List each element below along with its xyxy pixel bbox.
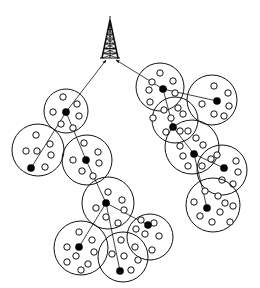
sensor-node: [161, 107, 167, 113]
cluster-head-node: [102, 199, 110, 207]
cluster-K: [165, 120, 219, 174]
cluster-M: [186, 178, 240, 232]
sensor-node: [170, 78, 176, 84]
sensor-node: [221, 113, 227, 119]
sensor-node: [138, 217, 144, 223]
sensor-node: [34, 148, 40, 154]
sensor-node: [73, 253, 79, 259]
sensor-node: [133, 226, 139, 232]
sensor-node: [208, 156, 214, 162]
sensor-node: [156, 233, 162, 239]
sensor-node: [91, 249, 97, 255]
cluster-G: [98, 232, 148, 282]
sensor-node: [226, 103, 232, 109]
sensor-node: [85, 261, 91, 267]
cluster-head-node: [213, 97, 221, 105]
cluster-head-node: [203, 204, 211, 212]
cluster-D: [82, 177, 134, 229]
sensor-node: [180, 111, 186, 117]
link-line: [86, 160, 106, 203]
cluster-B: [12, 124, 64, 176]
sensor-node: [64, 244, 70, 250]
sensor-node: [109, 251, 115, 257]
sensor-node: [90, 173, 96, 179]
sensor-node: [81, 140, 87, 146]
sensor-node: [42, 164, 48, 170]
sensor-node: [118, 237, 124, 243]
sensor-node: [150, 115, 156, 121]
sensor-node: [128, 267, 134, 273]
sensor-node: [197, 213, 203, 219]
sensor-node: [33, 132, 39, 138]
sensor-node: [79, 168, 85, 174]
sensor-node: [149, 247, 155, 253]
sensor-node: [175, 105, 181, 111]
link-line: [66, 60, 106, 112]
cluster-head-node: [190, 150, 198, 158]
cluster-F: [127, 214, 173, 260]
sensor-node: [115, 220, 121, 226]
sensor-node: [142, 231, 148, 237]
sensor-node: [121, 253, 127, 259]
sensor-node: [217, 209, 223, 215]
sensor-node: [209, 219, 215, 225]
sensor-node: [76, 229, 82, 235]
sensor-node: [185, 128, 191, 134]
sensor-node: [103, 214, 109, 220]
sensor-node: [157, 70, 163, 76]
cluster-boundary: [165, 120, 219, 174]
sensor-node: [96, 160, 102, 166]
sensor-node: [95, 149, 101, 155]
base-station-tower-icon: [100, 16, 120, 58]
sensor-node: [135, 257, 141, 263]
sensor-node: [64, 259, 70, 265]
sensor-node: [93, 205, 99, 211]
sensor-node: [180, 153, 186, 159]
sensor-node: [230, 203, 236, 209]
link-line: [163, 89, 217, 101]
sensor-node: [191, 199, 197, 205]
cluster-H: [136, 63, 184, 111]
sensor-node: [168, 115, 174, 121]
cluster-head-node: [116, 267, 124, 275]
sensor-node: [193, 135, 199, 141]
sensor-node: [47, 141, 53, 147]
sensor-node: [132, 244, 138, 250]
sensor-node: [177, 128, 183, 134]
cluster-head-node: [169, 123, 177, 131]
sensor-node: [227, 219, 233, 225]
sensor-node: [119, 197, 125, 203]
sensor-node: [185, 163, 191, 169]
sensor-node: [211, 111, 217, 117]
sensor-node: [50, 109, 56, 115]
cluster-A: [44, 89, 88, 133]
sensor-node: [146, 87, 152, 93]
sensor-node: [60, 94, 66, 100]
sensor-node: [74, 101, 80, 107]
sensor-node: [199, 101, 205, 107]
sensor-node: [214, 152, 220, 158]
sensor-node: [199, 163, 205, 169]
sensor-node: [202, 188, 208, 194]
sensor-node: [215, 193, 221, 199]
sensor-node: [89, 237, 95, 243]
sensor-node: [58, 121, 64, 127]
link-line: [66, 112, 86, 160]
cluster-head-node: [62, 108, 70, 116]
sensor-network-diagram: [0, 0, 260, 288]
sensor-node: [225, 90, 231, 96]
cluster-head-node: [144, 221, 152, 229]
cluster-head-node: [27, 164, 35, 172]
sensor-node: [233, 158, 239, 164]
sensor-node: [76, 113, 82, 119]
cluster-head-node: [75, 243, 83, 251]
sensor-node: [147, 99, 153, 105]
clusters-layer: [12, 63, 247, 282]
sensor-node: [222, 200, 228, 206]
sensor-node: [78, 267, 84, 273]
sensor-node: [23, 148, 29, 154]
sensor-node: [70, 157, 76, 163]
cluster-head-node: [159, 85, 167, 93]
cluster-head-node: [82, 156, 90, 164]
sensor-node: [200, 142, 206, 148]
